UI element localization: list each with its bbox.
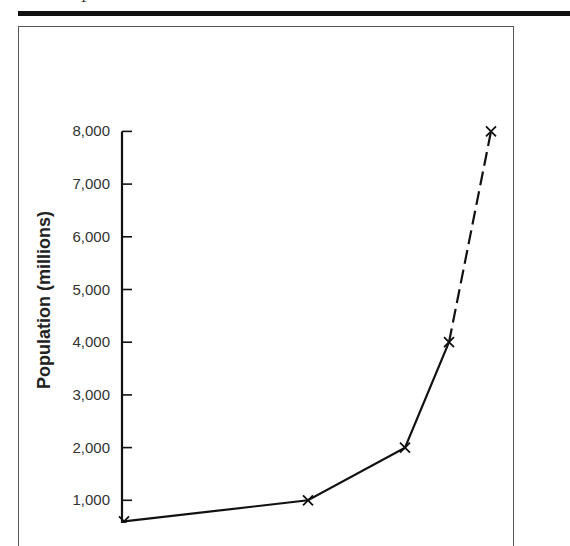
historical-solid-line xyxy=(124,342,449,521)
y-tick-label: 5,000 xyxy=(72,281,110,298)
y-tick-label: 6,000 xyxy=(72,228,110,245)
data-series xyxy=(119,126,496,523)
y-tick-label: 2,000 xyxy=(72,439,110,456)
projected-dashed-line xyxy=(449,131,491,342)
y-tick-label: 4,000 xyxy=(72,333,110,350)
y-tick-label: 7,000 xyxy=(72,175,110,192)
y-tick-label: 8,000 xyxy=(72,122,110,139)
y-axis-label: Population (millions) xyxy=(34,211,54,389)
y-axis-title: Population (millions) xyxy=(34,211,54,389)
x-marker-icon xyxy=(400,443,410,453)
y-axis: 1,0002,0003,0004,0005,0006,0007,0008,000 xyxy=(72,122,132,523)
y-tick-label: 1,000 xyxy=(72,491,110,508)
y-tick-label: 3,000 xyxy=(72,386,110,403)
